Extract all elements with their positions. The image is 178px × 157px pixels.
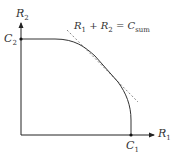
x-axis-label: R1: [158, 128, 171, 142]
c2-label: C2: [4, 33, 17, 47]
c1-label: C1: [126, 140, 139, 154]
capacity-region-boundary: [21, 39, 131, 135]
c2-point: [19, 37, 22, 40]
c1-point: [129, 133, 132, 136]
sum-rate-tangent-line: [67, 30, 138, 102]
y-axis-label: R2: [16, 8, 29, 22]
sum-rate-label: R1 + R2 = Csum: [74, 21, 150, 34]
